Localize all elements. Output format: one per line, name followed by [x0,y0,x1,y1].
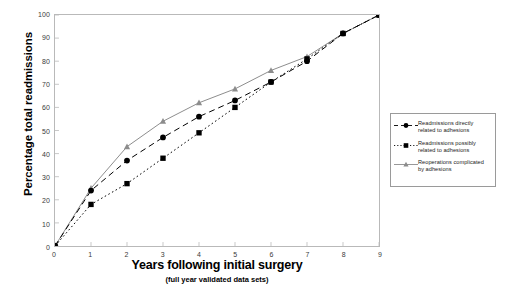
legend-label: Readmissions possibly related to adhesio… [418,140,476,155]
x-axis-subtitle: (full year validated data sets) [54,275,380,284]
plot-canvas [55,15,379,246]
legend-label-line1: Reoperations complicated [418,159,484,165]
x-tick-label: 3 [153,251,173,258]
y-tick-label: 40 [24,150,50,157]
x-tick-label: 2 [116,251,136,258]
x-tick-label: 1 [80,251,100,258]
legend-key-circle-dashed-icon [394,121,418,130]
y-tick-label: 70 [24,80,50,87]
y-tick-label: 80 [24,57,50,64]
x-tick-label: 8 [334,251,354,258]
plot-area [54,14,380,247]
legend-key-triangle-solid-icon [394,160,418,169]
legend-label: Reoperations complicated by adhesions [418,159,484,174]
y-tick-label: 10 [24,220,50,227]
chart-page: Percentage total readmissions 0102030405… [0,0,506,297]
y-tick-label: 20 [24,197,50,204]
legend-item-readmissions-directly: Readmissions directly related to adhesio… [394,120,491,135]
y-tick-label: 100 [24,11,50,18]
x-tick-label: 7 [298,251,318,258]
x-tick-label: 5 [225,251,245,258]
y-tick-label: 0 [24,244,50,251]
legend-key-square-dotted-icon [394,141,418,150]
legend-label-line2: related to adhesions [418,127,469,133]
x-axis-title: Years following initial surgery [54,258,380,272]
y-tick-label: 60 [24,104,50,111]
legend-label-line2: related to adhesions [418,147,469,153]
legend-label: Readmissions directly related to adhesio… [418,120,473,135]
y-tick-label: 50 [24,127,50,134]
legend-label-line2: by adhesions [418,166,452,172]
legend-label-line1: Readmissions directly [418,120,473,126]
x-tick-label: 6 [261,251,281,258]
y-tick-label: 90 [24,34,50,41]
legend-item-readmissions-possibly: Readmissions possibly related to adhesio… [394,140,491,155]
x-tick-label: 9 [370,251,390,258]
x-tick-label: 4 [189,251,209,258]
y-tick-label: 30 [24,174,50,181]
legend-label-line1: Readmissions possibly [418,140,476,146]
x-tick-label: 0 [44,251,64,258]
legend-item-reoperations-complicated: Reoperations complicated by adhesions [394,159,491,174]
chart-legend: Readmissions directly related to adhesio… [390,113,496,187]
